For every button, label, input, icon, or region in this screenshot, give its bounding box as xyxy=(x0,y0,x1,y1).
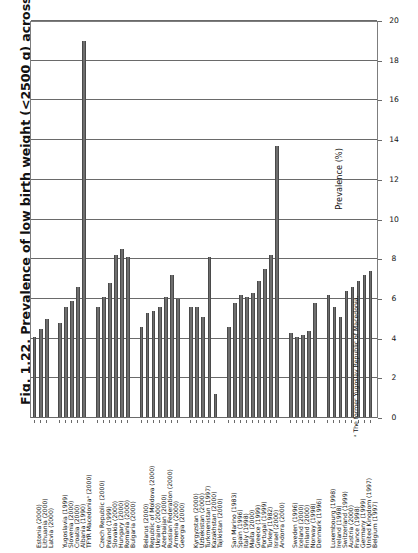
category-tickmark xyxy=(127,420,128,423)
value-axis-tickmark xyxy=(378,418,382,419)
category-tickmark xyxy=(228,420,229,423)
bar xyxy=(39,329,43,418)
category-tickmark xyxy=(246,420,247,423)
category-tickmark xyxy=(190,420,191,423)
bar xyxy=(257,281,261,418)
value-axis-tick-label: 16 xyxy=(384,95,404,104)
category-tickmark xyxy=(240,420,241,423)
category-tickmark xyxy=(264,420,265,423)
bar xyxy=(76,287,80,418)
category-label: Latvia (2000) xyxy=(48,508,55,548)
bar xyxy=(45,319,49,418)
value-axis-tickmark xyxy=(378,180,382,181)
bar xyxy=(64,307,68,418)
bar xyxy=(327,295,331,418)
bar xyxy=(263,269,267,418)
category-tickmark xyxy=(234,420,235,423)
category-tickmark xyxy=(109,420,110,423)
bar xyxy=(158,307,162,418)
category-tickmark xyxy=(46,420,47,423)
bar xyxy=(170,275,174,418)
category-tickmark xyxy=(290,420,291,423)
bar xyxy=(289,333,293,418)
bar xyxy=(140,327,144,418)
category-label: Georgia (2000) xyxy=(179,503,186,548)
value-axis-tickmark xyxy=(378,339,382,340)
bar xyxy=(126,257,130,418)
category-tickmark xyxy=(196,420,197,423)
value-axis-tickmark xyxy=(378,100,382,101)
value-axis-title: Prevalence (%) xyxy=(334,114,348,244)
category-tickmark xyxy=(165,420,166,423)
value-axis-tickmark xyxy=(378,21,382,22)
value-axis-tickmark xyxy=(378,140,382,141)
category-tickmark xyxy=(308,420,309,423)
value-axis-tick-label: 0 xyxy=(384,413,404,422)
bar xyxy=(96,307,100,418)
value-axis-tick-label: 8 xyxy=(384,254,404,263)
category-tickmark xyxy=(214,420,215,423)
category-tickmark xyxy=(141,420,142,423)
category-tickmark xyxy=(270,420,271,423)
category-label: Denmark (1996) xyxy=(316,498,323,548)
value-axis-tickmark xyxy=(378,299,382,300)
category-tickmark xyxy=(276,420,277,423)
bar-series xyxy=(31,22,377,418)
bar xyxy=(251,293,255,418)
plot-frame xyxy=(30,21,378,418)
value-axis-tickmark xyxy=(378,220,382,221)
bar xyxy=(345,291,349,418)
value-axis-tick-label: 18 xyxy=(384,56,404,65)
category-tickmark xyxy=(296,420,297,423)
category-tickmark xyxy=(115,420,116,423)
bar xyxy=(333,307,337,418)
category-tickmark xyxy=(147,420,148,423)
bar xyxy=(233,303,237,418)
category-label: Belgium (1997) xyxy=(372,502,379,548)
bar xyxy=(120,249,124,418)
category-tickmark xyxy=(252,420,253,423)
value-axis-tick-label: 2 xyxy=(384,373,404,382)
bar xyxy=(152,311,156,418)
category-tickmark xyxy=(171,420,172,423)
category-label: Andorra (2000) xyxy=(279,502,286,548)
category-tickmark xyxy=(208,420,209,423)
category-label: TFYR Macedoniaᵃ (2000) xyxy=(86,474,93,548)
category-tickmark xyxy=(159,420,160,423)
bar xyxy=(146,313,150,418)
bar xyxy=(70,301,74,418)
value-axis-tick-label: 10 xyxy=(384,215,404,224)
bar xyxy=(102,297,106,418)
category-tickmark xyxy=(40,420,41,423)
category-label: Tajikistan (2000) xyxy=(217,498,224,548)
bar xyxy=(339,317,343,418)
category-tickmark xyxy=(202,420,203,423)
category-tickmark xyxy=(153,420,154,423)
value-axis-tick-label: 4 xyxy=(384,334,404,343)
category-tickmark xyxy=(177,420,178,423)
bar xyxy=(195,307,199,418)
category-tickmark xyxy=(71,420,72,423)
category-tickmark xyxy=(121,420,122,423)
bar xyxy=(301,335,305,418)
bar xyxy=(58,323,62,418)
bar xyxy=(307,331,311,418)
value-axis-tick-label: 20 xyxy=(384,16,404,25)
bar xyxy=(275,146,279,418)
category-tickmark xyxy=(314,420,315,423)
category-tickmark xyxy=(103,420,104,423)
bar xyxy=(245,297,249,418)
bar xyxy=(214,394,218,418)
bar xyxy=(33,337,37,418)
gridline xyxy=(31,20,377,21)
category-tickmark xyxy=(34,420,35,423)
category-tickmark xyxy=(339,420,340,423)
category-tickmark xyxy=(97,420,98,423)
chart-plot-area xyxy=(30,21,378,418)
bar xyxy=(176,299,180,418)
value-axis-tick-label: 6 xyxy=(384,294,404,303)
category-tickmark xyxy=(345,420,346,423)
bar xyxy=(82,41,86,418)
category-tickmark xyxy=(59,420,60,423)
category-tickmark xyxy=(327,420,328,423)
